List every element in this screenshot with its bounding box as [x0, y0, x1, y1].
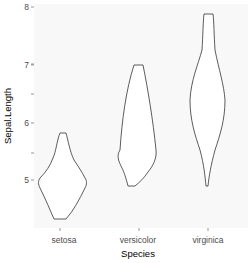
- x-axis-title: Species: [121, 248, 155, 259]
- y-tick-8: 8: [24, 2, 29, 12]
- x-tick-setosa: setosa: [51, 235, 76, 245]
- y-tick-7: 7: [24, 60, 29, 70]
- x-tick-versicolor: versicolor: [120, 235, 157, 245]
- y-axis-title: Sepal.Length: [2, 88, 13, 144]
- x-tick-virginica: virginica: [192, 235, 223, 245]
- y-tick-5: 5: [24, 175, 29, 185]
- y-tick-6: 6: [24, 118, 29, 128]
- y-axis: 5 6 7 8: [24, 2, 34, 185]
- x-axis: setosa versicolor virginica: [51, 228, 223, 245]
- violin-chart: 5 6 7 8 Sepal.Length setosa versicolor v…: [0, 0, 250, 263]
